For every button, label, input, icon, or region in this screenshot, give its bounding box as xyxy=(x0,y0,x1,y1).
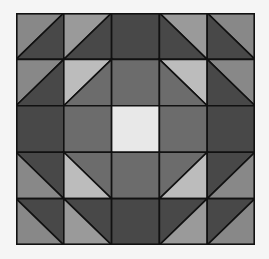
quilt-square xyxy=(207,106,255,152)
quilt-square xyxy=(112,199,160,245)
quilt-square xyxy=(112,59,160,105)
quilt-square xyxy=(159,106,207,152)
quilt-pattern-image xyxy=(16,13,255,245)
quilt-square xyxy=(64,106,112,152)
quilt-square xyxy=(16,106,64,152)
quilt-grid xyxy=(16,13,255,245)
quilt-square xyxy=(112,152,160,198)
quilt-square xyxy=(112,106,160,152)
quilt-square xyxy=(112,13,160,59)
